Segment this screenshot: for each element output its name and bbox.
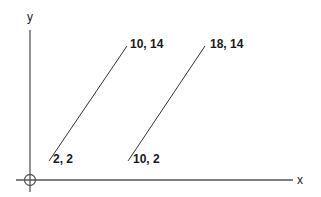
segment-2-start-label: 10, 2 bbox=[133, 152, 160, 166]
y-axis-label: y bbox=[27, 10, 33, 24]
segment-1-end-label: 10, 14 bbox=[130, 37, 164, 51]
segment-1-start-label: 2, 2 bbox=[53, 152, 73, 166]
segment-2-end-label: 18, 14 bbox=[210, 37, 244, 51]
line-segment-1 bbox=[49, 46, 127, 161]
x-axis-label: x bbox=[297, 173, 303, 187]
line-segment-2 bbox=[128, 46, 205, 161]
coordinate-diagram: y x 2, 2 10, 14 10, 2 18, 14 bbox=[0, 0, 321, 197]
